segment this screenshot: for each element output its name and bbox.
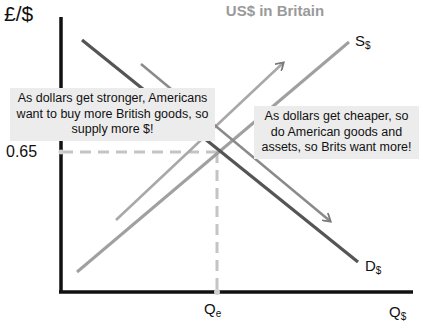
price-tick-label: 0.65 — [6, 143, 37, 161]
demand-label-sub: $ — [376, 265, 382, 276]
callout-supply-explanation: As dollars get stronger, Americans want … — [10, 88, 215, 141]
callout-demand-explanation: As dollars get cheaper, so do American g… — [254, 106, 419, 159]
x-axis-label: Q$ — [389, 303, 406, 322]
qe-label-sub: e — [216, 308, 222, 319]
supply-label-sub: $ — [365, 40, 371, 51]
demand-curve-label: D$ — [365, 257, 381, 276]
quantity-marker — [214, 289, 220, 295]
demand-label-main: D — [365, 257, 376, 274]
equilibrium-quantity-label: Qe — [204, 300, 221, 319]
chart-title: US$ in Britain — [205, 2, 345, 19]
supply-label-main: S — [355, 32, 365, 49]
supply-curve-label: S$ — [355, 32, 371, 51]
qe-label-main: Q — [204, 300, 216, 317]
y-axis-label: £/$ — [4, 2, 33, 26]
price-marker — [59, 150, 64, 155]
x-label-main: Q — [389, 303, 401, 320]
x-label-sub: $ — [401, 311, 407, 322]
